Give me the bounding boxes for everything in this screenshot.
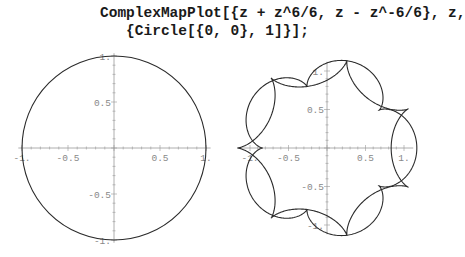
y-tick-label: -0.5 — [301, 182, 324, 193]
left-plot-unit-circle: -1.-1.-0.5-0.50.50.51.1. — [13, 52, 211, 247]
y-tick-label: -0.5 — [88, 190, 111, 201]
right-plot-mapped-curves: -1.-1.-0.5-0.50.50.51.1. — [237, 60, 417, 235]
y-tick-label: 0.5 — [94, 98, 111, 109]
x-tick-label: -0.5 — [57, 153, 80, 164]
x-tick-label: 0.5 — [151, 153, 168, 164]
y-tick-label: 0.5 — [307, 105, 324, 116]
x-tick-label: -0.5 — [277, 153, 300, 164]
x-tick-label: 1. — [398, 153, 409, 164]
x-tick-label: 0.5 — [357, 153, 374, 164]
y-tick-label: -1. — [94, 236, 111, 247]
